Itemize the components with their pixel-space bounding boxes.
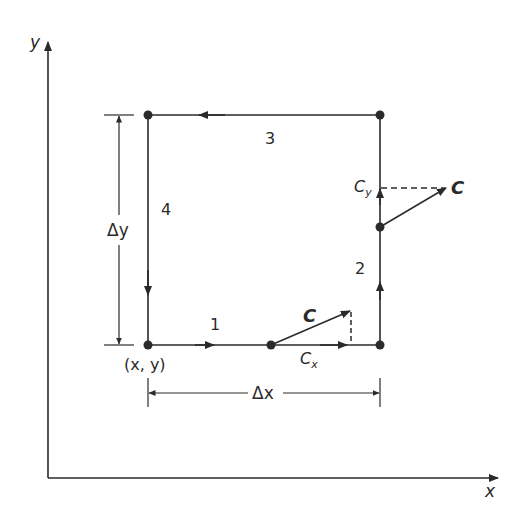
corner-dot-bottom-left (144, 341, 153, 350)
segment-3-label: 3 (265, 129, 275, 148)
cy-label: Cy (354, 177, 372, 199)
segment-2-label: 2 (355, 259, 365, 278)
x-axis-label: x (484, 481, 496, 501)
dx-label: Δx (252, 383, 274, 403)
circulation-diagram: y x 1 2 3 4 (x, y) Δy (0, 0, 519, 519)
corner-dot-top-right (376, 111, 385, 120)
vector-right (380, 188, 446, 227)
vector-c-bottom-label: C (303, 305, 317, 326)
y-axis-label: y (29, 32, 41, 52)
cx-label: Cx (300, 349, 318, 371)
corner-dot-top-left (144, 111, 153, 120)
nodes (144, 111, 385, 350)
segment-1-label: 1 (210, 315, 220, 334)
axes (48, 42, 498, 478)
corner-label: (x, y) (124, 355, 166, 374)
segment-4-label: 4 (161, 200, 171, 219)
dy-label: Δy (107, 220, 129, 240)
vector-c-right-label: C (451, 177, 465, 198)
corner-dot-bottom-right (376, 341, 385, 350)
contour (148, 115, 380, 345)
vector-c-right-arrow-icon (380, 188, 446, 227)
